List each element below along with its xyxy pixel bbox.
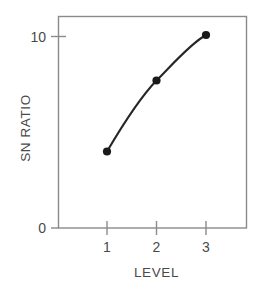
y-tick-label-0: 0 (38, 220, 46, 236)
x-tick-label-3: 3 (202, 239, 210, 255)
x-axis-title: LEVEL (134, 265, 179, 280)
y-tick-label-10: 10 (30, 29, 46, 45)
data-point-level-3 (202, 31, 210, 39)
x-tick-label-2: 2 (153, 239, 161, 255)
y-axis-title: SN RATIO (18, 94, 33, 162)
chart-page: 10 0 1 2 3 SN RATIO LEVEL (0, 0, 265, 290)
sn-ratio-level-line-chart: 10 0 1 2 3 SN RATIO LEVEL (0, 0, 265, 290)
data-point-level-2 (152, 76, 160, 84)
plot-frame (59, 17, 247, 229)
data-point-level-1 (103, 147, 111, 155)
data-line-sn-ratio (107, 35, 206, 152)
x-tick-label-1: 1 (103, 239, 111, 255)
